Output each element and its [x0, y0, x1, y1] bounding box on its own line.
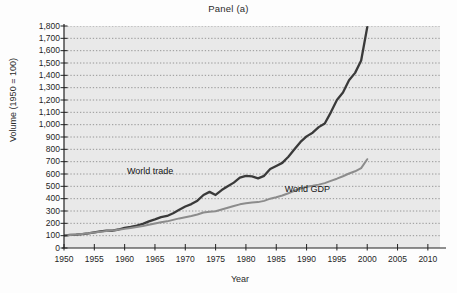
y-tick-label: 500 [20, 182, 60, 190]
y-tick-label: 900 [20, 133, 60, 141]
y-tick-label: 100 [20, 231, 60, 239]
y-tick-label: 1,600 [20, 46, 60, 54]
chart-title: Panel (a) [0, 3, 457, 14]
figure-panel-a: Panel (a) Volume (1950 = 100) 0100200300… [0, 0, 457, 293]
y-tick-label: 1,200 [20, 96, 60, 104]
series-label-world-gdp: World GDP [285, 184, 330, 194]
plot-area [64, 26, 440, 248]
y-tick-label: 700 [20, 157, 60, 165]
y-tick-label: 1,800 [20, 22, 60, 30]
y-tick-label: 300 [20, 207, 60, 215]
x-tick-label: 2010 [408, 254, 448, 264]
y-tick-label: 1,100 [20, 108, 60, 116]
chart-canvas [64, 26, 440, 248]
series-label-world-trade: World trade [127, 166, 173, 176]
y-tick-label: 1,400 [20, 71, 60, 79]
y-tick-label: 400 [20, 194, 60, 202]
x-axis-label: Year [40, 274, 440, 284]
y-tick-label: 200 [20, 219, 60, 227]
y-tick-label: 1,700 [20, 34, 60, 42]
y-tick-label: 600 [20, 170, 60, 178]
y-tick-label: 0 [20, 244, 60, 252]
y-tick-label: 800 [20, 145, 60, 153]
y-tick-label: 1,500 [20, 59, 60, 67]
y-tick-label: 1,300 [20, 83, 60, 91]
y-axis-label: Volume (1950 = 100) [8, 40, 18, 160]
y-tick-label: 1,000 [20, 120, 60, 128]
